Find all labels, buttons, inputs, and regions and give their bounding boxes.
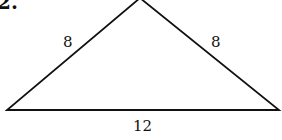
- left-side-label: 8: [63, 33, 73, 51]
- right-side-label: 8: [211, 33, 221, 51]
- triangle: [7, 0, 279, 110]
- base-side-label: 12: [133, 117, 152, 135]
